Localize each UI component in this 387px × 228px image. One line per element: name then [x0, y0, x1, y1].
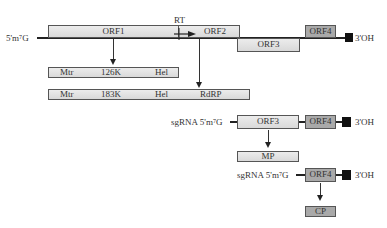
- sgrna2-prefix: sgRNA 5'm⁷G: [237, 170, 289, 180]
- sgrna1-orf4-label: ORF4: [309, 116, 331, 126]
- sgrna2-orf4-label: ORF4: [309, 169, 331, 179]
- sgrna1-prefix: sgRNA 5'm⁷G: [171, 117, 223, 127]
- sgrna1-3prime-terminal-icon: [342, 117, 351, 127]
- orf1-to-126k-arrowhead-icon: [110, 59, 116, 65]
- sgrna1-orf3-label: ORF3: [257, 116, 279, 126]
- orf4-box: ORF4: [305, 25, 336, 38]
- orf2-to-183k-arrowhead-icon: [196, 82, 202, 88]
- sgrna1-orf4-box: ORF4: [305, 115, 336, 129]
- genome-3prime-terminal-icon: [345, 33, 353, 42]
- sgrna2-orf4-box: ORF4: [305, 168, 336, 182]
- sgrna2-3prime-terminal-icon: [342, 170, 351, 180]
- p126-domain-hel: Hel: [155, 67, 168, 78]
- p183-domain-rdrp: RdRP: [200, 89, 222, 100]
- orf2-to-183k-arrow-shaft: [199, 39, 200, 83]
- orf4-to-cp-arrowhead-icon: [317, 195, 323, 201]
- orf1-to-126k-arrow-shaft: [113, 39, 114, 60]
- p126-domain-mtr: Mtr: [60, 67, 74, 78]
- sgrna1-3prime-label: 3'OH: [355, 117, 374, 127]
- orf2-label: ORF2: [204, 26, 226, 36]
- orf1-box: ORF1: [48, 25, 179, 38]
- genome-3prime-label: 3'OH: [355, 33, 374, 43]
- orf1-label: ORF1: [102, 26, 124, 36]
- p183-center-label: 183K: [101, 89, 121, 100]
- readthrough-label: RT: [174, 15, 185, 25]
- p183-domain-mtr: Mtr: [60, 89, 74, 100]
- readthrough-arrow-icon: [174, 26, 198, 38]
- orf3-to-mp-arrowhead-icon: [265, 142, 271, 148]
- protein-mp: MP: [237, 151, 299, 162]
- cp-label: CP: [315, 206, 326, 216]
- p183-domain-hel: Hel: [155, 89, 168, 100]
- sgrna1-orf3-box: ORF3: [237, 115, 299, 129]
- orf3-label: ORF3: [257, 39, 279, 49]
- mp-label: MP: [261, 151, 274, 161]
- orf4-label: ORF4: [309, 26, 331, 36]
- protein-183k: Mtr 183K Hel RdRP: [48, 89, 250, 100]
- orf3-box: ORF3: [237, 38, 300, 52]
- genome-5prime-cap: 5'm⁷G: [6, 33, 29, 43]
- protein-126k: Mtr 126K Hel: [48, 67, 179, 78]
- protein-cp: CP: [305, 206, 336, 217]
- sgrna2-3prime-label: 3'OH: [355, 170, 374, 180]
- p126-center-label: 126K: [101, 67, 121, 78]
